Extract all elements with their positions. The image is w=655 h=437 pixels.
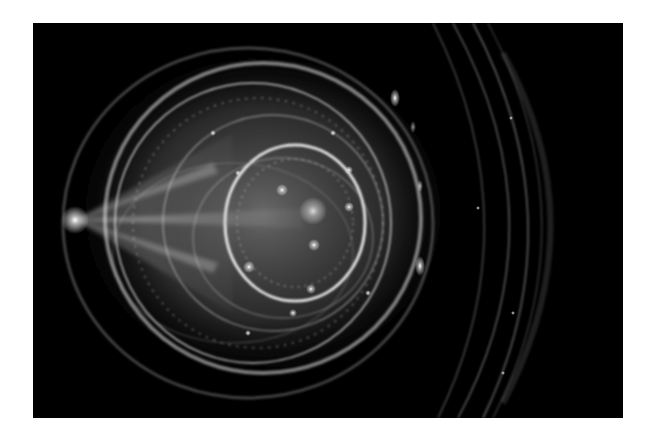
- center-blob: [299, 197, 327, 225]
- fractal-render: [33, 23, 623, 418]
- fractal-image: [33, 23, 623, 418]
- focal-point: [61, 206, 89, 234]
